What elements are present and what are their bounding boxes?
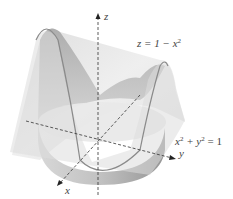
parabolic-cylinder-equation: z = 1 − x2: [137, 38, 181, 49]
parabolic-equation-text: z = 1 − x: [137, 37, 178, 49]
z-axis-arrowhead: [96, 13, 101, 19]
cyl-eq-rest: = 1: [205, 135, 222, 147]
z-axis-label: z: [104, 11, 108, 22]
surface-plot: [0, 0, 233, 199]
y-axis-arrowhead: [169, 155, 176, 160]
x-axis-label: x: [65, 185, 70, 196]
cyl-eq-y: + y: [183, 135, 201, 147]
diagram-canvas: z y x z = 1 − x2 x2 + y2 = 1: [0, 0, 233, 199]
parabolic-equation-exponent: 2: [178, 37, 182, 45]
circular-cylinder-equation: x2 + y2 = 1: [175, 136, 222, 147]
y-axis-label: y: [179, 148, 184, 159]
